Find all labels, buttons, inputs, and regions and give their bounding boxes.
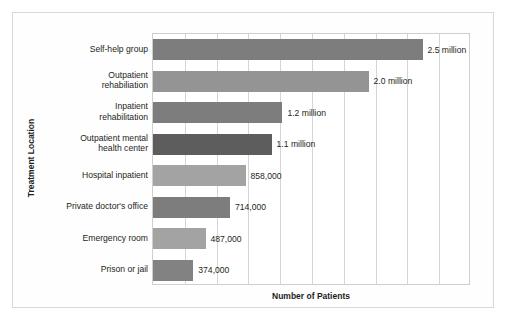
plot-area: 2.5 million2.0 million1.2 million1.1 mil…: [152, 33, 470, 285]
bar-row: 487,000: [153, 223, 469, 255]
category-label-line: Outpatient: [36, 70, 148, 81]
bar-value-label: 2.0 million: [369, 76, 413, 86]
y-axis-title-label: Treatment Location: [26, 119, 36, 197]
bar: [153, 134, 272, 155]
bar-row: 2.5 million: [153, 34, 469, 66]
category-label-line: Hospital inpatient: [36, 170, 148, 181]
chart-figure: Treatment Location Self-help groupOutpat…: [0, 0, 506, 320]
category-label-line: rehabiliation: [36, 80, 148, 91]
bar-row: 1.2 million: [153, 97, 469, 129]
category-label: Private doctor's office: [36, 201, 148, 212]
bar-row: 2.0 million: [153, 66, 469, 98]
category-label: Outpatient mentalhealth center: [36, 133, 148, 154]
category-label: Self-help group: [36, 44, 148, 55]
x-axis-title: Number of Patients: [152, 291, 470, 301]
bar: [153, 260, 193, 281]
category-label-line: Outpatient mental: [36, 133, 148, 144]
bar-value-label: 487,000: [206, 234, 242, 244]
category-label-line: Private doctor's office: [36, 201, 148, 212]
bar-value-label: 1.1 million: [272, 139, 316, 149]
category-label-line: Inpatient: [36, 101, 148, 112]
category-label-line: Emergency room: [36, 233, 148, 244]
bar: [153, 165, 246, 186]
bar-row: 714,000: [153, 192, 469, 224]
category-label: Emergency room: [36, 233, 148, 244]
bar: [153, 102, 282, 123]
category-label: Hospital inpatient: [36, 170, 148, 181]
bar-row: 374,000: [153, 255, 469, 287]
category-label-line: Self-help group: [36, 44, 148, 55]
bar-value-label: 1.2 million: [282, 108, 326, 118]
bar-row: 858,000: [153, 160, 469, 192]
bar: [153, 228, 206, 249]
category-label: Prison or jail: [36, 264, 148, 275]
bar-value-label: 374,000: [193, 265, 229, 275]
category-label-line: Prison or jail: [36, 264, 148, 275]
category-label: Outpatientrehabiliation: [36, 70, 148, 91]
category-labels: Self-help groupOutpatientrehabiliationIn…: [40, 33, 150, 288]
category-label-line: rehabilitation: [36, 112, 148, 123]
bar-value-label: 2.5 million: [423, 45, 467, 55]
bar: [153, 39, 423, 60]
bar: [153, 71, 369, 92]
category-label: Inpatientrehabilitation: [36, 101, 148, 122]
bar: [153, 197, 230, 218]
bar-row: 1.1 million: [153, 129, 469, 161]
bar-value-label: 714,000: [230, 202, 266, 212]
bar-value-label: 858,000: [246, 171, 282, 181]
category-label-line: health center: [36, 143, 148, 154]
